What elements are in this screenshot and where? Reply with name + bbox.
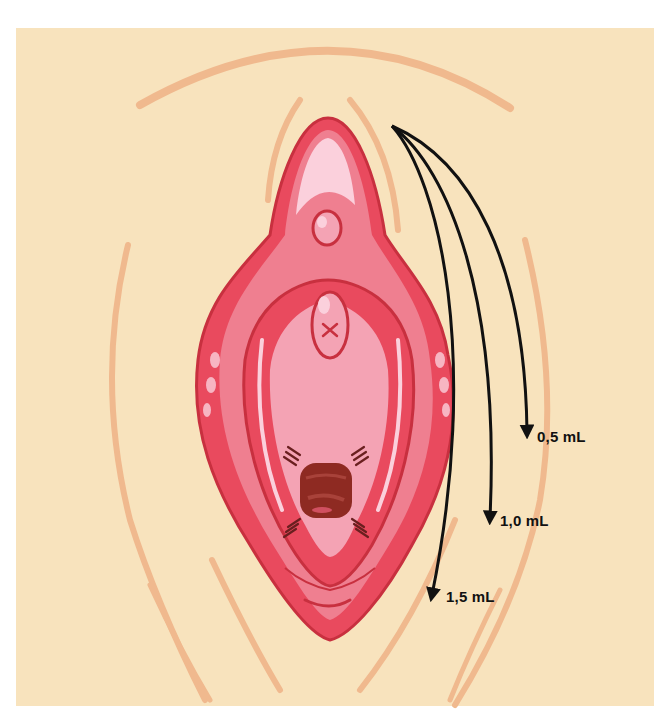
label-0-5ml: 0,5 mL [537, 428, 586, 445]
label-1-5ml: 1,5 mL [446, 588, 495, 605]
label-1-0ml: 1,0 mL [500, 512, 549, 529]
urethra [312, 292, 348, 358]
clitoris [313, 211, 341, 245]
anatomical-illustration [0, 0, 670, 720]
